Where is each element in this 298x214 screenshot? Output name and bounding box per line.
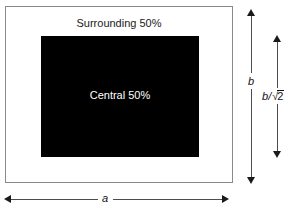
arrowhead-down-icon <box>273 151 281 158</box>
fraction-expression: b/√2 <box>262 90 284 102</box>
arrowhead-left-icon <box>4 195 11 203</box>
outer-width-dimension-line-right <box>113 199 222 200</box>
outer-height-dimension-line <box>251 14 252 179</box>
arrowhead-up-icon <box>247 9 255 16</box>
arrowhead-up-icon <box>273 35 281 42</box>
surrounding-region-label: Surrounding 50% <box>5 17 233 30</box>
figure-canvas: Surrounding 50% Central 50% b b/√2 a <box>0 0 298 214</box>
outer-height-dimension-label: b <box>244 73 258 89</box>
central-region-label: Central 50% <box>41 89 199 102</box>
outer-width-dimension-label: a <box>98 191 112 205</box>
outer-width-dimension-line-left <box>11 199 98 200</box>
arrowhead-down-icon <box>247 177 255 184</box>
square-root-icon: √2 <box>271 90 284 102</box>
radicand-value: 2 <box>277 90 284 102</box>
inner-height-dimension-label: b/√2 <box>262 88 296 104</box>
arrowhead-right-icon <box>222 195 229 203</box>
